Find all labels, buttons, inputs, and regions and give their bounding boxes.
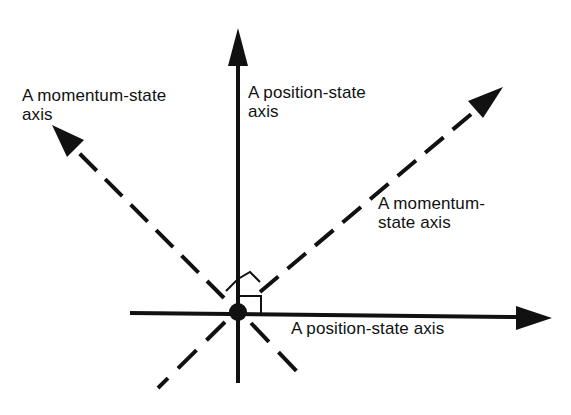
arrowhead-right-icon xyxy=(516,306,552,330)
lower-left-dashed-extension xyxy=(158,322,225,388)
state-axes-diagram xyxy=(0,0,571,415)
label-line: state axis xyxy=(378,213,485,232)
label-line: A momentum- xyxy=(378,194,485,213)
label-line: axis xyxy=(22,105,166,124)
label-position-horizontal: A position-state axis xyxy=(291,319,444,338)
label-momentum-upper-left: A momentum-state axis xyxy=(22,86,166,124)
label-momentum-upper-right: A momentum- state axis xyxy=(378,194,485,232)
label-line: A position-state xyxy=(248,83,366,102)
arrowhead-up-icon xyxy=(228,28,248,66)
label-line: axis xyxy=(248,102,366,121)
label-line: A position-state axis xyxy=(291,319,444,338)
upper-left-momentum-axis xyxy=(52,125,224,298)
arrowhead-up-right-icon xyxy=(468,87,503,118)
arrowhead-up-left-icon xyxy=(52,125,84,157)
vertical-position-axis xyxy=(228,28,248,383)
right-angle-marker-diamond xyxy=(226,272,260,291)
label-line: A momentum-state xyxy=(22,86,166,105)
origin-dot xyxy=(229,303,247,321)
label-position-vertical: A position-state axis xyxy=(248,83,366,121)
